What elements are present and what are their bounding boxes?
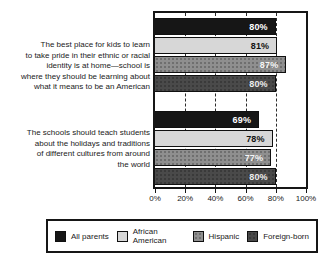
legend: All parentsAfrican AmericanHispanicForei… (46, 219, 318, 253)
bar-value-label: 81% (251, 38, 270, 53)
group-label-2: The schools should teach studentsabout t… (2, 128, 150, 170)
legend-swatch (117, 231, 128, 242)
group-label-line: where they should be learning about (2, 72, 150, 83)
x-tick-label-80%: 80% (259, 194, 293, 203)
group-label-line: about the holidays and traditions (2, 139, 150, 150)
x-tick-label-60%: 60% (229, 194, 263, 203)
group-label-line: The schools should teach students (2, 128, 150, 139)
bar-group1-african-american: 81% (155, 37, 277, 54)
x-tick-0% (155, 189, 156, 193)
bar-value-label: 80% (249, 169, 268, 184)
bar-group2-foreign-born: 80% (155, 168, 276, 185)
legend-label: All parents (71, 232, 109, 241)
legend-swatch (247, 231, 258, 242)
bar-chart: 80%81%87%80%69%78%77%80% The best place … (0, 0, 327, 257)
bar-group2-all-parents: 69% (155, 111, 259, 128)
x-tick-100% (306, 189, 307, 193)
bar-value-label: 77% (245, 150, 264, 165)
bar-value-label: 69% (233, 112, 252, 127)
group-label-line: the world (2, 160, 150, 171)
x-tick-label-100%: 100% (289, 194, 323, 203)
group-label-line: identity is at home—school is (2, 61, 150, 72)
x-tick-label-40%: 40% (198, 194, 232, 203)
group-label-line: to take pride in their ethnic or racial (2, 51, 150, 62)
group-label-line: what it means to be an American (2, 82, 150, 93)
legend-label: Foreign-born (263, 232, 309, 241)
x-tick-20% (185, 189, 186, 193)
x-tick-40% (215, 189, 216, 193)
legend-item-african-american: African American (117, 227, 185, 245)
legend-label: Hispanic (209, 232, 240, 241)
bar-group2-african-american: 78% (155, 130, 273, 147)
bar-group1-hispanic: 87% (155, 56, 286, 73)
bar-group1-foreign-born: 80% (155, 75, 276, 92)
x-tick-80% (276, 189, 277, 193)
x-tick-label-0%: 0% (138, 194, 172, 203)
bar-value-label: 87% (260, 57, 279, 72)
bar-group1-all-parents: 80% (155, 18, 276, 35)
legend-swatch (55, 231, 66, 242)
group-label-line: The best place for kids to learn (2, 40, 150, 51)
bar-value-label: 80% (249, 76, 268, 91)
group-label-1: The best place for kids to learnto take … (2, 40, 150, 93)
legend-label: African American (133, 227, 185, 245)
legend-item-hispanic: Hispanic (193, 231, 240, 242)
group-label-line: of different cultures from around (2, 149, 150, 160)
legend-swatch (193, 231, 204, 242)
legend-item-foreign-born: Foreign-born (247, 231, 309, 242)
bar-value-label: 78% (246, 131, 265, 146)
legend-item-all-parents: All parents (55, 231, 109, 242)
plot-area: 80%81%87%80%69%78%77%80% (153, 11, 308, 189)
x-tick-60% (246, 189, 247, 193)
bar-value-label: 80% (249, 19, 268, 34)
bar-group2-hispanic: 77% (155, 149, 271, 166)
x-tick-label-20%: 20% (168, 194, 202, 203)
